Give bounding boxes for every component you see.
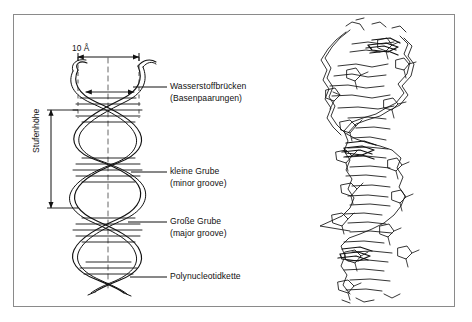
- callout-polynucleotide-chain: Polynucleotidkette: [170, 271, 241, 283]
- sugar-ring-11: [380, 224, 394, 237]
- sugar-ring-14: [398, 246, 412, 259]
- callout-hydrogen-bonds-line2: (Basenpaarungen): [170, 93, 246, 105]
- schematic-helix-group: [70, 58, 156, 296]
- stufenhoehe-label: Stufenhöhe: [31, 86, 43, 176]
- strand-top-curl-right-edge: [143, 62, 156, 67]
- ten-angstrom-label: 10 Å: [72, 43, 89, 55]
- strand-top-curl-left-edge: [72, 60, 86, 71]
- callout-polynucleotide-chain-line1: Polynucleotidkette: [170, 271, 241, 281]
- stufenhoehe-dimension-group: [47, 110, 78, 208]
- callout-major-groove-line2: (major groove): [170, 228, 227, 240]
- dna-figure: Wasserstoffbrücken (Basenpaarungen) klei…: [0, 0, 472, 322]
- side-branch-sticks: [330, 42, 419, 300]
- callout-major-groove: Große Grube (major groove): [170, 216, 227, 239]
- sugar-ring-2: [384, 98, 398, 110]
- base-pair-rungs: [73, 98, 142, 274]
- callout-minor-groove-line1: kleine Grube: [170, 166, 219, 176]
- terminal-atoms-top: [346, 18, 406, 32]
- terminal-atoms-bottom: [342, 294, 400, 303]
- callout-minor-groove: kleine Grube (minor groove): [170, 166, 227, 189]
- callout-hydrogen-bonds-line1: Wasserstoffbrücken: [170, 81, 246, 91]
- base-stack-cluster-top: [366, 38, 400, 55]
- atomic-stick-model-group: [320, 18, 419, 303]
- sugar-ring-1: [396, 58, 409, 70]
- callout-major-groove-line1: Große Grube: [170, 216, 221, 226]
- strand-bottom-end-a: [124, 293, 131, 296]
- sugar-ring-5: [341, 183, 357, 196]
- sugar-ring-13: [338, 280, 354, 293]
- callout-hydrogen-bonds: Wasserstoffbrücken (Basenpaarungen): [170, 81, 246, 104]
- sugar-ring-10: [392, 190, 406, 203]
- base-stack-cluster-lower: [338, 247, 372, 261]
- callout-minor-groove-line2: (minor groove): [170, 178, 227, 190]
